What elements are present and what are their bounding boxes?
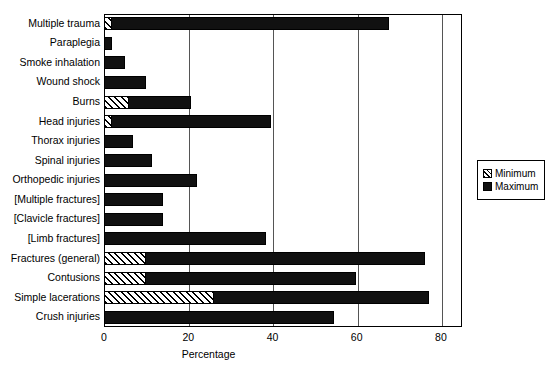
y-axis-label: Simple lacerations [14,292,100,303]
y-axis-label: [Multiple fractures] [14,194,100,205]
bar-segment-maximum [111,17,389,30]
y-axis-label: Smoke inhalation [19,57,100,68]
legend-label-maximum: Maximum [495,181,538,192]
bar-group [104,311,334,324]
bar-group [104,17,389,30]
x-tick-label-60: 60 [337,331,377,343]
bar-chart: Multiple traumaParaplegiaSmoke inhalatio… [0,0,549,374]
bar-group [104,56,125,69]
bar-group [104,232,266,245]
hatched-swatch-icon [483,169,492,178]
bar-segment-maximum [104,56,125,69]
y-axis-label: Thorax injuries [31,135,100,146]
bar-segment-maximum [128,96,191,109]
legend-item-minimum: Minimum [483,168,538,179]
bar-segment-maximum [104,213,163,226]
y-axis-label: [Clavicle fractures] [14,213,100,224]
y-axis-labels: Multiple traumaParaplegiaSmoke inhalatio… [0,14,100,327]
bar-segment-maximum [104,154,152,167]
x-axis-title-text: Percentage [182,348,236,360]
solid-black-swatch-icon [483,182,492,191]
x-tick-label-20: 20 [168,331,208,343]
y-axis-label: Wound shock [37,76,100,87]
x-tick-label-80: 80 [421,331,461,343]
y-axis-label: Head injuries [39,116,100,127]
bar-segment-maximum [145,272,356,285]
bar-segment-maximum [104,37,112,50]
x-tick-label-0: 0 [84,331,124,343]
legend: Minimum Maximum [477,160,545,200]
y-axis-label: Multiple trauma [28,18,100,29]
bar-segment-maximum [104,135,133,148]
y-axis-label: [Limb fractures] [28,233,100,244]
bar-segment-maximum [104,311,334,324]
bar-segment-maximum [213,291,430,304]
legend-item-maximum: Maximum [483,181,538,192]
bar-group [104,174,197,187]
bar-segment-maximum [104,174,197,187]
bar-group [104,213,163,226]
bar-group [104,115,271,128]
bar-segment-maximum [111,115,271,128]
y-axis-label: Contusions [47,272,100,283]
bar-group [104,76,146,89]
bar-segment-minimum [104,96,129,109]
bar-group [104,135,133,148]
bar-segment-maximum [145,252,425,265]
legend-label-minimum: Minimum [495,168,536,179]
bar-segment-minimum [104,291,214,304]
bar-group [104,193,163,206]
bar-group [104,96,191,109]
y-axis-label: Burns [73,96,100,107]
x-tick-label-40: 40 [252,331,292,343]
bar-segment-minimum [104,272,146,285]
y-axis-label: Crush injuries [36,311,100,322]
bar-segment-minimum [104,252,146,265]
y-axis-label: Fractures (general) [11,253,100,264]
bar-group [104,291,429,304]
bar-segment-maximum [104,193,163,206]
bar-group [104,272,356,285]
bar-group [104,37,112,50]
y-axis-label: Orthopedic injuries [12,174,100,185]
bar-segment-maximum [104,232,266,245]
bar-group [104,252,425,265]
y-axis-label: Paraplegia [50,37,100,48]
bar-segment-maximum [104,76,146,89]
x-axis-title: Percentage [0,348,549,360]
bar-group [104,154,152,167]
bars-layer [104,14,462,327]
y-axis-label: Spinal injuries [35,155,100,166]
